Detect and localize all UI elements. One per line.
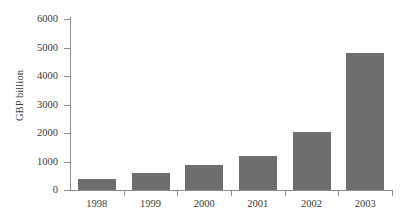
x-axis-tick xyxy=(285,190,286,196)
bar xyxy=(239,156,277,190)
bar xyxy=(132,173,170,190)
x-axis-tick-label: 2003 xyxy=(355,199,376,210)
x-axis-tick-label: 1998 xyxy=(86,199,107,210)
bar xyxy=(78,179,116,190)
bar xyxy=(293,132,331,190)
x-axis-tick xyxy=(392,190,393,196)
x-axis-tick xyxy=(124,190,125,196)
x-axis-tick-label: 1999 xyxy=(140,199,161,210)
bar xyxy=(346,53,384,190)
x-axis-tick xyxy=(338,190,339,196)
x-axis-tick-label: 2001 xyxy=(247,199,268,210)
bars-layer xyxy=(0,0,412,190)
bar-chart-figure: GBP billion 0100020003000400050006000 19… xyxy=(0,0,412,223)
x-axis-tick-label: 2002 xyxy=(301,199,322,210)
x-axis-tick xyxy=(231,190,232,196)
bar xyxy=(185,165,223,190)
y-axis-tick xyxy=(64,190,70,191)
x-axis-tick xyxy=(177,190,178,196)
x-axis-tick-label: 2000 xyxy=(194,199,215,210)
